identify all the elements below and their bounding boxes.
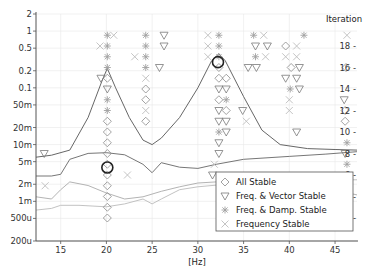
cross-marker [124, 172, 131, 179]
diamond-marker [103, 117, 111, 125]
x-tick-label: 35 [238, 245, 249, 255]
asterisk-marker [104, 96, 111, 103]
legend-label: Freq. & Damp. Stable [236, 205, 327, 215]
cross-marker [293, 53, 300, 60]
diamond-marker [142, 117, 150, 125]
triangle-marker [282, 75, 290, 82]
triangle-marker [293, 129, 301, 136]
diamond-marker [341, 117, 349, 125]
legend-label: Freq. & Vector Stable [236, 191, 326, 201]
cross-marker [142, 75, 149, 82]
triangle-marker [251, 43, 259, 50]
triangle-marker [215, 118, 223, 125]
y-tick-label: 0.2 [18, 66, 32, 76]
diamond-marker [142, 85, 150, 93]
diamond-marker [103, 214, 111, 222]
asterisk-marker [252, 53, 259, 60]
x-tick-label: 30 [192, 245, 203, 255]
y-tick-label: 1m [18, 196, 32, 206]
spectrum-1-line [36, 54, 357, 158]
asterisk-marker [215, 43, 222, 50]
diamond-marker [142, 96, 150, 104]
y-tick-label: 200u [10, 236, 32, 246]
diamond-marker [103, 182, 111, 190]
asterisk-marker [215, 129, 222, 136]
iteration-axis-title: Iteration [326, 14, 362, 24]
iteration-tick-label: 12 - [339, 106, 356, 116]
y-tick-label: 50m [13, 100, 32, 110]
triangle-marker [215, 151, 223, 158]
asterisk-marker [250, 32, 257, 39]
cross-marker [282, 53, 289, 60]
asterisk-marker [104, 64, 111, 71]
iteration-tick-label: 10 - [339, 127, 356, 137]
cross-marker [142, 107, 149, 114]
iteration-tick-label: 8 - [345, 149, 356, 159]
cross-marker [260, 32, 267, 39]
diamond-marker [222, 107, 230, 115]
y-tick-label: 500u [10, 213, 32, 223]
asterisk-marker [142, 32, 149, 39]
asterisk-marker [142, 53, 149, 60]
y-tick-label: 1 [27, 26, 32, 36]
cross-marker [42, 182, 49, 189]
cross-marker [110, 32, 117, 39]
y-tick-label: 5m [18, 157, 32, 167]
asterisk-marker [142, 43, 149, 50]
asterisk-marker [287, 86, 294, 93]
triangle-marker [239, 108, 247, 115]
triangle-marker [160, 32, 168, 39]
asterisk-marker [104, 32, 111, 39]
diamond-marker [103, 128, 111, 136]
asterisk-marker [104, 43, 111, 50]
diamond-marker [282, 42, 290, 50]
asterisk-marker [343, 161, 350, 168]
triangle-marker [222, 129, 230, 136]
x-tick-label: 40 [284, 245, 295, 255]
triangle-marker [215, 140, 223, 147]
x-tick-label: 45 [330, 245, 341, 255]
legend-label: Frequency Stable [236, 219, 310, 229]
cross-marker [343, 32, 350, 39]
y-tick-label: 20m [13, 123, 32, 133]
iteration-tick-label: 14 - [339, 84, 356, 94]
legend: All StableFreq. & Vector StableFreq. & D… [216, 172, 353, 231]
asterisk-marker [300, 32, 307, 39]
legend-item: Freq. & Vector Stable [221, 191, 326, 201]
asterisk-marker [104, 107, 111, 114]
asterisk-marker [104, 53, 111, 60]
cross-marker [131, 53, 138, 60]
diamond-marker [103, 139, 111, 147]
x-axis-ticks: 15202530354045 [55, 241, 340, 255]
diamond-marker [215, 96, 223, 104]
diamond-marker [103, 203, 111, 211]
x-tick-label: 15 [55, 245, 66, 255]
triangle-marker [263, 43, 271, 50]
diamond-marker [287, 64, 295, 72]
y-tick-label: 0.5 [18, 43, 32, 53]
triangle-marker [222, 86, 230, 93]
cross-marker [204, 32, 211, 39]
triangle-marker [295, 86, 303, 93]
legend-asterisk-icon [222, 207, 229, 214]
stabilization-diagram: 210.50.20.150m20m10m5m2m1m500u200u 15202… [0, 0, 370, 276]
triangle-marker [222, 118, 230, 125]
cross-marker [262, 53, 269, 60]
x-axis-title: [Hz] [188, 257, 206, 267]
triangle-marker [103, 86, 111, 93]
y-tick-label: 2m [18, 179, 32, 189]
triangle-marker [215, 86, 223, 93]
x-tick-label: 25 [147, 245, 158, 255]
asterisk-marker [223, 96, 230, 103]
asterisk-marker [142, 64, 149, 71]
y-tick-label: 10m [13, 140, 32, 150]
triangle-marker [160, 43, 168, 50]
cross-marker [204, 53, 211, 60]
y-tick-label: 0.1 [18, 83, 32, 93]
asterisk-marker [215, 32, 222, 39]
x-tick-label: 20 [101, 245, 112, 255]
legend-label: All Stable [236, 177, 276, 187]
iteration-tick-label: 16 - [339, 63, 356, 73]
legend-item: Freq. & Damp. Stable [222, 205, 327, 215]
y-tick-label: 2 [27, 9, 32, 19]
